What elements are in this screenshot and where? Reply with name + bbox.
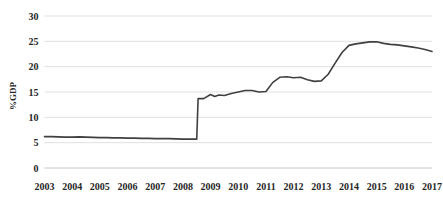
x-tick-label: 2003 xyxy=(35,181,55,192)
data-line-series xyxy=(45,42,433,139)
series-group xyxy=(45,42,433,139)
line-chart: 051015202530 200320042005200620072008200… xyxy=(0,0,443,203)
x-tick-label: 2014 xyxy=(339,181,359,192)
x-tick-label: 2016 xyxy=(394,181,414,192)
y-tick-label: 0 xyxy=(34,163,39,174)
y-tick-label: 15 xyxy=(29,87,39,98)
x-tick-label: 2004 xyxy=(62,181,82,192)
chart-container: 051015202530 200320042005200620072008200… xyxy=(0,0,443,203)
x-tick-label: 2007 xyxy=(145,181,165,192)
x-tick-label: 2011 xyxy=(256,181,275,192)
x-tick-label: 2015 xyxy=(367,181,387,192)
y-tick-label: 20 xyxy=(29,61,39,72)
x-tick-label: 2012 xyxy=(284,181,304,192)
x-tick-label: 2006 xyxy=(118,181,138,192)
x-tick-label: 2010 xyxy=(228,181,248,192)
x-tick-label: 2013 xyxy=(311,181,331,192)
x-tick-label: 2009 xyxy=(201,181,221,192)
y-axis-label: %GDP xyxy=(8,82,18,111)
y-tick-labels: 051015202530 xyxy=(29,11,39,174)
y-axis-title: %GDP xyxy=(8,82,18,111)
y-tick-label: 30 xyxy=(29,11,39,22)
x-tick-label: 2008 xyxy=(173,181,193,192)
x-tick-labels: 2003200420052006200720082009201020112012… xyxy=(35,181,443,192)
y-tick-label: 25 xyxy=(29,36,39,47)
x-tick-label: 2005 xyxy=(90,181,110,192)
x-tick-label: 2017 xyxy=(422,181,442,192)
y-tick-label: 5 xyxy=(34,137,39,148)
gridlines-group xyxy=(45,16,433,143)
y-tick-label: 10 xyxy=(29,112,39,123)
